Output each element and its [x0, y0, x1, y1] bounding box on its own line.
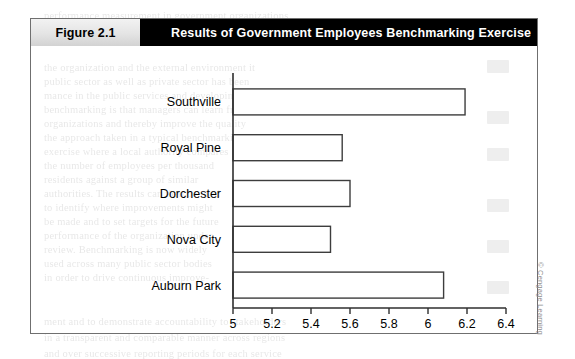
bar-chart-plot-area: SouthvilleRoyal PineDorchesterNova CityA…	[31, 46, 537, 333]
figure-title-cell: Results of Government Employees Benchmar…	[140, 19, 537, 46]
figure-container: Figure 2.1 Results of Government Employe…	[30, 18, 538, 334]
category-label-southville: Southville	[167, 95, 221, 109]
x-axis-tick-label: 6.2	[458, 317, 475, 331]
copyright-credit: © Cengage Learning	[536, 262, 545, 335]
bar-nova-city	[233, 226, 331, 252]
category-label-dorchester: Dorchester	[160, 187, 221, 201]
bar-southville	[233, 89, 465, 115]
figure-number-cell: Figure 2.1	[31, 19, 140, 46]
figure-title-text: Results of Government Employees Benchmar…	[171, 26, 531, 40]
x-axis-tick-label: 5.2	[263, 317, 280, 331]
figure-header: Figure 2.1 Results of Government Employe…	[31, 19, 537, 46]
category-label-nova-city: Nova City	[167, 233, 222, 247]
x-axis-tick-label: 6	[425, 317, 432, 331]
x-axis-tick-label: 5.4	[302, 317, 319, 331]
x-axis-tick-label: 5.6	[341, 317, 358, 331]
x-axis-tick-label: 6.4	[497, 317, 514, 331]
bar-royal-pine	[233, 135, 342, 161]
x-axis-tick-label: 5.8	[380, 317, 397, 331]
figure-number-label: Figure 2.1	[55, 26, 115, 40]
category-label-auburn-park: Auburn Park	[152, 279, 222, 293]
category-label-royal-pine: Royal Pine	[161, 141, 221, 155]
bar-chart-svg: SouthvilleRoyal PineDorchesterNova CityA…	[31, 46, 537, 333]
bar-auburn-park	[233, 272, 444, 298]
showthrough-line: and over successive reporting periods fo…	[44, 348, 282, 359]
x-axis-tick-label: 5	[230, 317, 237, 331]
bar-dorchester	[233, 181, 350, 207]
